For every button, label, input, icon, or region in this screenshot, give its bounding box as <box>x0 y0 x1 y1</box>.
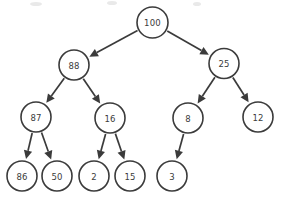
tree-node[interactable]: 16 <box>95 103 125 133</box>
edge-arrowhead-icon <box>92 94 100 103</box>
edge-line <box>233 77 244 95</box>
tree-edge <box>46 78 64 103</box>
edge-arrowhead-icon <box>198 94 206 103</box>
tree-node[interactable]: 8 <box>173 103 203 133</box>
tree-edge <box>198 77 215 103</box>
tree-edge <box>167 31 209 55</box>
edge-line <box>97 31 138 53</box>
node-label: 87 <box>30 113 41 123</box>
tree-node[interactable]: 15 <box>115 161 145 191</box>
tree-edge <box>24 133 32 159</box>
background-specks <box>30 1 201 6</box>
node-label: 16 <box>104 114 115 124</box>
edge-line <box>51 78 64 96</box>
tree-edge <box>175 134 184 159</box>
node-label: 50 <box>51 172 62 182</box>
edge-arrowhead-icon <box>97 150 105 159</box>
node-label: 12 <box>252 113 263 123</box>
tree-node[interactable]: 88 <box>59 50 89 80</box>
edge-line <box>179 134 184 151</box>
edge-arrowhead-icon <box>44 150 52 159</box>
edge-arrowhead-icon <box>46 94 54 103</box>
node-label: 8 <box>185 114 191 124</box>
edge-arrowhead-icon <box>241 93 249 102</box>
tree-node[interactable]: 100 <box>137 7 168 38</box>
edge-line <box>83 79 95 97</box>
edge-layer <box>24 31 249 160</box>
tree-node[interactable]: 86 <box>7 161 37 191</box>
node-label: 86 <box>16 172 27 182</box>
binary-tree-diagram: 1008825871681286502153 <box>0 0 282 197</box>
background-speck <box>30 2 42 6</box>
tree-node[interactable]: 12 <box>243 102 273 132</box>
node-layer: 1008825871681286502153 <box>7 7 273 191</box>
tree-edge <box>89 31 137 57</box>
tree-edge <box>83 79 100 104</box>
tree-node[interactable]: 50 <box>42 161 72 191</box>
background-speck <box>107 1 117 5</box>
tree-node[interactable]: 3 <box>157 161 187 191</box>
edge-line <box>28 133 32 151</box>
edge-line <box>167 31 201 51</box>
tree-node[interactable]: 87 <box>21 102 51 132</box>
node-label: 100 <box>144 18 161 28</box>
node-label: 25 <box>218 59 229 69</box>
edge-line <box>202 77 215 96</box>
tree-node[interactable]: 25 <box>209 49 239 79</box>
tree-edge <box>233 77 249 102</box>
tree-edge <box>97 134 106 159</box>
edge-line <box>115 134 121 152</box>
edge-arrowhead-icon <box>175 150 183 159</box>
edge-line <box>42 133 49 152</box>
edge-arrowhead-icon <box>118 150 126 159</box>
node-label: 2 <box>91 172 97 182</box>
edge-line <box>101 134 106 151</box>
tree-edge <box>115 134 125 160</box>
tree-node[interactable]: 2 <box>79 161 109 191</box>
node-label: 15 <box>124 172 135 182</box>
node-label: 88 <box>68 61 79 71</box>
tree-edge <box>42 133 53 160</box>
edge-arrowhead-icon <box>24 150 32 159</box>
tree-canvas: 1008825871681286502153 <box>0 0 282 197</box>
background-speck <box>193 2 201 6</box>
node-label: 3 <box>169 172 175 182</box>
